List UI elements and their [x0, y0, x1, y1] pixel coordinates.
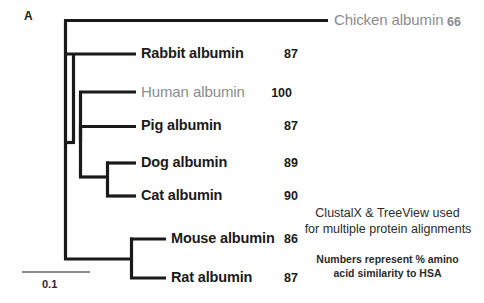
similarity-value-rabbit: 87	[272, 48, 298, 61]
taxon-label-dog: Dog albumin	[141, 155, 227, 170]
taxon-label-human: Human albumin	[141, 84, 245, 99]
similarity-value-human: 100	[266, 87, 292, 100]
phylogenetic-tree-figure: A Chicken albumin 66 Rabbit albumin 87 H…	[0, 0, 484, 303]
taxon-label-rat: Rat albumin	[171, 270, 252, 285]
method-note-line-1: ClustalX & TreeView used	[300, 206, 475, 222]
scale-bar-label: 0.1	[42, 279, 57, 290]
similarity-value-pig: 87	[272, 120, 298, 133]
similarity-value-chicken: 66	[447, 16, 461, 29]
similarity-value-dog: 89	[272, 157, 298, 170]
panel-letter: A	[24, 10, 33, 22]
taxon-label-rabbit: Rabbit albumin	[141, 46, 244, 61]
taxon-label-chicken: Chicken albumin	[334, 12, 443, 27]
method-note-line-2: for multiple protein alignments	[293, 222, 483, 238]
taxon-label-cat: Cat albumin	[141, 188, 222, 203]
taxon-label-pig: Pig albumin	[141, 118, 222, 133]
legend-note-line-1: Numbers represent % amino	[300, 253, 475, 267]
legend-note-line-2: acid similarity to HSA	[300, 267, 475, 281]
taxon-label-mouse: Mouse albumin	[171, 231, 275, 246]
similarity-value-rat: 87	[272, 272, 298, 285]
similarity-value-cat: 90	[272, 190, 298, 203]
